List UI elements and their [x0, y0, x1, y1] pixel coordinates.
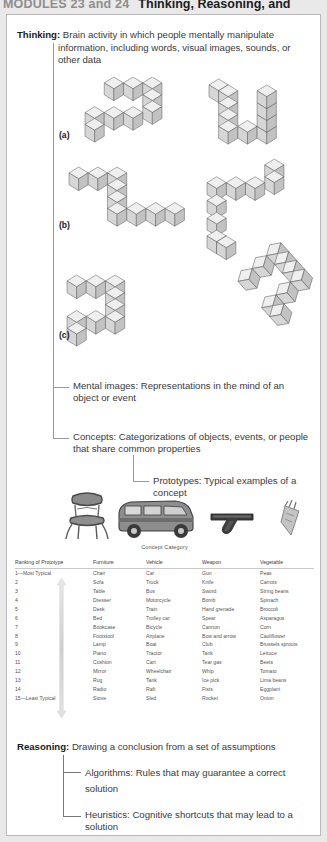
concept-map-panel: Thinking: Brain activity in which people…	[6, 14, 321, 836]
header-modules-label: MODULES 23 and 24	[0, 0, 129, 11]
header-title: Thinking, Reasoning, and	[129, 0, 290, 11]
table-cell-vehicle: Cart	[146, 658, 202, 667]
table-cell-rank: 11	[15, 658, 93, 667]
table-cell-vegetable: Corn	[260, 622, 314, 631]
branch-connector-algorithms	[63, 772, 81, 773]
table-cell-furniture: Stove	[93, 693, 146, 702]
table-cell-rank: 6	[15, 613, 93, 622]
table-cell-rank: 13	[15, 676, 93, 685]
reasoning-term: Reasoning:	[17, 741, 69, 752]
table-cell-vegetable: Tomato	[260, 667, 314, 676]
table-cell-vegetable: Onion	[260, 693, 314, 702]
table-row: 13RugTankIce pickLima beans	[15, 676, 314, 685]
table-cell-vehicle: Train	[146, 605, 202, 614]
table-cell-rank: 9	[15, 640, 93, 649]
table-cell-vegetable: Carrots	[260, 578, 314, 587]
table-cell-weapon: Bomb	[202, 596, 260, 605]
figure-a-right	[209, 79, 276, 144]
table-cell-rank: 12	[15, 667, 93, 676]
table-cell-weapon: Tear gas	[202, 658, 260, 667]
table-row: 2SofaTruckKnifeCarrots	[15, 578, 314, 587]
table-cell-weapon: Rocket	[202, 693, 260, 702]
concept-category-caption: Concept Category	[7, 544, 321, 550]
table-row: 12MirrorWheelchairWhipTomato	[15, 667, 314, 676]
table-cell-furniture: Radio	[93, 684, 146, 693]
mental-rotation-figures: (a) (b) (c)	[59, 77, 314, 382]
table-cell-vegetable: Brussels sprouts	[260, 640, 314, 649]
thinking-definition-row: Thinking: Brain activity in which people…	[17, 29, 312, 67]
thinking-definition-text: Thinking: Brain activity in which people…	[17, 29, 312, 67]
table-header-row: Ranking of Prototype Furniture Vehicle W…	[15, 559, 314, 569]
table-cell-furniture: Footstool	[93, 631, 146, 640]
figure-b-left	[69, 167, 184, 226]
table-cell-weapon: Fists	[202, 684, 260, 693]
table-cell-vegetable: Beets	[260, 658, 314, 667]
table-cell-weapon: Cannon	[202, 622, 260, 631]
table-cell-vegetable: String beans	[260, 587, 314, 596]
table-cell-vegetable: Lettuce	[260, 649, 314, 658]
table-cell-furniture: Piano	[93, 649, 146, 658]
table-cell-vehicle: Bus	[146, 587, 202, 596]
concepts-connector-spine	[133, 455, 134, 482]
table-cell-weapon: Sword	[202, 587, 260, 596]
prototype-photo-row	[15, 487, 314, 539]
car-photo	[119, 501, 193, 538]
table-cell-weapon: Whip	[202, 667, 260, 676]
table-cell-rank: 14	[15, 684, 93, 693]
table-cell-furniture: Chair	[93, 569, 146, 578]
table-row: 15—Least TypicalStoveSledRocketOnion	[15, 693, 314, 702]
table-cell-vehicle: Boat	[146, 640, 202, 649]
vegetable-photo	[281, 500, 299, 535]
branch-connector-heuristics	[63, 816, 81, 817]
table-cell-weapon: Tank	[202, 649, 260, 658]
table-cell-rank: 5	[15, 605, 93, 614]
branch-mental-images: Mental images: Representations in the mi…	[73, 380, 305, 405]
table-row: 7BookcaseBicycleCannonCorn	[15, 622, 314, 631]
table-cell-furniture: Dresser	[93, 596, 146, 605]
table-cell-furniture: Bed	[93, 613, 146, 622]
column-header-weapon: Weapon	[202, 559, 260, 569]
table-row: 3TableBusSwordString beans	[15, 587, 314, 596]
table-cell-weapon: Gun	[202, 569, 260, 578]
table-cell-vegetable: Cauliflower	[260, 631, 314, 640]
table-cell-rank: 2	[15, 578, 93, 587]
chair-photo	[66, 493, 108, 539]
branch-concepts: Concepts: Categorizations of objects, ev…	[73, 431, 313, 456]
table-cell-furniture: Bookcase	[93, 622, 146, 631]
table-row: 14RadioRaftFistsEggplant	[15, 684, 314, 693]
table-cell-vehicle: Trolley car	[146, 613, 202, 622]
prototype-ranking-table: Ranking of Prototype Furniture Vehicle W…	[15, 559, 314, 702]
table-cell-vegetable: Broccoli	[260, 605, 314, 614]
column-header-vegetable: Vegetable	[260, 559, 314, 569]
column-header-vehicle: Vehicle	[146, 559, 202, 569]
branch-connector-prototypes	[133, 481, 149, 482]
table-cell-furniture: Mirror	[93, 667, 146, 676]
table-cell-weapon: Hand grenade	[202, 605, 260, 614]
reasoning-definition: Drawing a conclusion from a set of assum…	[72, 741, 276, 752]
figure-c-left	[67, 275, 125, 346]
figure-label-b: (b)	[59, 220, 70, 230]
table-cell-weapon: Knife	[202, 578, 260, 587]
table-cell-weapon: Bow and arrow	[202, 631, 260, 640]
table-cell-weapon: Ice pick	[202, 676, 260, 685]
thinking-connector-spine	[53, 43, 54, 438]
branch-algorithms: Algorithms: Rules that may guarantee a c…	[85, 765, 313, 797]
table-cell-vehicle: Sled	[146, 693, 202, 702]
block-figures-svg	[59, 77, 314, 382]
column-header-furniture: Furniture	[93, 559, 146, 569]
figure-a-left	[85, 77, 162, 142]
thinking-definition: Brain activity in which people mentally …	[58, 29, 291, 65]
table-cell-rank: 15—Least Typical	[15, 693, 93, 702]
table-cell-vehicle: Motorcycle	[146, 596, 202, 605]
table-body: 1—Most TypicalChairCarGunPeas2SofaTruckK…	[15, 569, 314, 703]
table-cell-rank: 3	[15, 587, 93, 596]
table-row: 5DeskTrainHand grenadeBroccoli	[15, 605, 314, 614]
table-cell-vehicle: Tractor	[146, 649, 202, 658]
table-cell-vehicle: Airplane	[146, 631, 202, 640]
table-cell-vehicle: Wheelchair	[146, 667, 202, 676]
figure-c-right	[234, 238, 314, 329]
reasoning-connector-spine	[63, 755, 64, 817]
table-cell-furniture: Desk	[93, 605, 146, 614]
table-cell-rank: 1—Most Typical	[15, 569, 93, 578]
table-row: 6BedTrolley carSpearAsparagus	[15, 613, 314, 622]
